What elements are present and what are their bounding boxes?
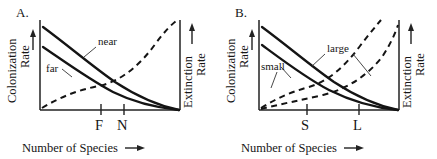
left-axis-title: Colonization	[5, 38, 19, 103]
panel-a: A. Colonization Rate Extinction Rate nea…	[0, 0, 218, 159]
right-axis-title: Extinction	[181, 55, 195, 108]
curve-label-far: far	[46, 62, 59, 74]
x-axis-arrow-icon	[344, 145, 364, 151]
leader-small-lower	[271, 72, 277, 88]
leader-far	[62, 69, 72, 77]
curve-label-small: small	[261, 60, 285, 72]
panel-b: B. Colonization Rate Extinction Rate lar…	[219, 0, 437, 159]
tick-label-s: S	[301, 117, 309, 133]
panel-letter: B.	[235, 5, 247, 20]
tick-label-f: F	[95, 117, 103, 133]
panel-a-plot: A. Colonization Rate Extinction Rate nea…	[0, 0, 218, 159]
right-axis-title-2: Rate	[413, 53, 427, 76]
x-axis-title: Number of Species	[241, 141, 337, 155]
panel-letter: A.	[16, 5, 29, 20]
left-axis-title-2: Rate	[18, 45, 32, 68]
curve-label-near: near	[98, 35, 117, 47]
left-axis-title: Colonization	[224, 38, 238, 103]
right-axis-arrow-icon	[408, 23, 414, 44]
island-biogeography-figure: A. Colonization Rate Extinction Rate nea…	[0, 0, 437, 159]
x-axis-title: Number of Species	[22, 141, 118, 155]
leader-near	[84, 47, 96, 57]
right-axis-arrow-icon	[189, 23, 195, 44]
x-axis-arrow-icon	[125, 145, 145, 151]
right-axis-title: Extinction	[400, 55, 414, 108]
right-axis-title-2: Rate	[194, 53, 208, 76]
tick-label-n: N	[117, 117, 128, 133]
left-axis-title-2: Rate	[237, 45, 251, 68]
leader-large-right	[353, 54, 371, 76]
curve-label-large: large	[327, 42, 349, 54]
panel-b-plot: B. Colonization Rate Extinction Rate lar…	[219, 0, 437, 159]
tick-label-l: L	[353, 117, 362, 133]
leader-large-left	[311, 54, 325, 67]
